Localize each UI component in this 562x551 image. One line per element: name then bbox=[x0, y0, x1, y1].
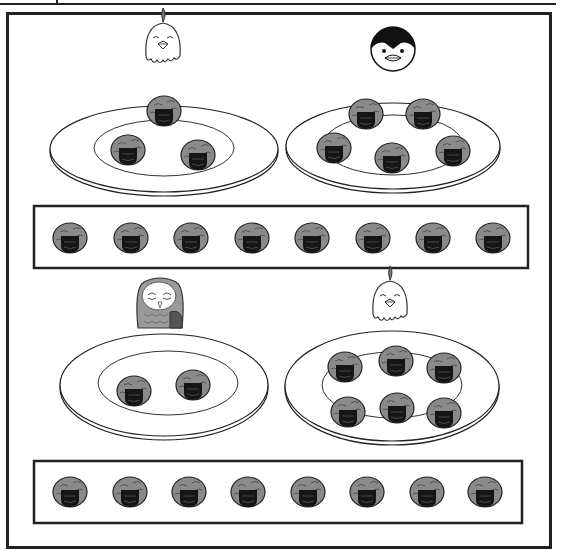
onigiri-icon bbox=[356, 223, 390, 253]
onigiri-icon bbox=[379, 346, 413, 376]
onigiri-icon bbox=[176, 370, 210, 400]
owl-icon bbox=[137, 278, 183, 328]
onigiri-icon bbox=[117, 376, 151, 406]
onigiri-icon bbox=[53, 223, 87, 253]
onigiri-icon bbox=[427, 353, 461, 383]
onigiri-icon bbox=[349, 99, 383, 129]
answer-strip-2 bbox=[34, 461, 522, 523]
onigiri-icon bbox=[416, 223, 450, 253]
penguin-icon bbox=[371, 27, 415, 71]
onigiri-icon bbox=[295, 223, 329, 253]
onigiri-icon bbox=[476, 223, 510, 253]
onigiri-icon bbox=[468, 477, 502, 507]
worksheet-canvas bbox=[0, 0, 562, 551]
onigiri-icon bbox=[174, 223, 208, 253]
onigiri-icon bbox=[406, 99, 440, 129]
onigiri-icon bbox=[111, 135, 145, 165]
onigiri-icon bbox=[436, 136, 470, 166]
chicken-icon bbox=[373, 266, 407, 321]
onigiri-icon bbox=[427, 398, 461, 428]
plate-owl bbox=[60, 334, 268, 440]
answer-strip-1 bbox=[34, 206, 528, 268]
onigiri-icon bbox=[291, 477, 325, 507]
onigiri-icon bbox=[172, 477, 206, 507]
chicken-icon bbox=[146, 8, 180, 63]
onigiri-icon bbox=[147, 96, 181, 126]
onigiri-icon bbox=[331, 397, 365, 427]
onigiri-icon bbox=[328, 352, 362, 382]
onigiri-icon bbox=[181, 140, 215, 170]
onigiri-icon bbox=[375, 143, 409, 173]
onigiri-icon bbox=[380, 393, 414, 423]
worksheet-illustration bbox=[0, 0, 562, 551]
onigiri-icon bbox=[231, 477, 265, 507]
onigiri-icon bbox=[235, 223, 269, 253]
onigiri-icon bbox=[113, 477, 147, 507]
onigiri-icon bbox=[350, 477, 384, 507]
onigiri-icon bbox=[53, 477, 87, 507]
onigiri-icon bbox=[410, 477, 444, 507]
onigiri-icon bbox=[317, 133, 351, 163]
onigiri-icon bbox=[114, 223, 148, 253]
